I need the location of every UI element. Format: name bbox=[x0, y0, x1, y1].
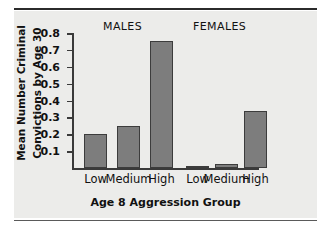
y-axis-tick: 0.6 bbox=[67, 67, 72, 69]
y-axis-title: Mean Number Criminal Convictions by Age … bbox=[0, 18, 44, 168]
bar bbox=[84, 134, 107, 168]
figure-container: Mean Number Criminal Convictions by Age … bbox=[0, 0, 331, 234]
y-axis-tick: 0.8 bbox=[67, 33, 72, 35]
y-axis-tick-label: 0.5 bbox=[41, 77, 61, 90]
y-axis-tick: 0.2 bbox=[67, 134, 72, 136]
y-axis-title-line-1: Mean Number Criminal bbox=[13, 18, 29, 168]
group-header-males: MALES bbox=[103, 20, 142, 33]
bar bbox=[150, 41, 173, 168]
y-axis-tick: 0.7 bbox=[67, 50, 72, 52]
bar bbox=[244, 111, 267, 168]
y-axis-line bbox=[72, 33, 74, 168]
y-axis-tick: 0.3 bbox=[67, 117, 72, 119]
top-rule bbox=[14, 8, 317, 10]
group-header-females: FEMALES bbox=[193, 20, 246, 33]
y-axis-tick: 0.1 bbox=[67, 151, 72, 153]
y-axis-tick: 0.4 bbox=[67, 101, 72, 103]
y-axis-tick: 0.5 bbox=[67, 84, 72, 86]
y-axis-tick-label: 0.3 bbox=[41, 111, 61, 124]
y-axis-tick-label: 0.6 bbox=[41, 60, 61, 73]
x-axis-category-label: High bbox=[148, 172, 174, 186]
x-axis-line bbox=[72, 168, 259, 170]
y-axis-tick-label: 0.7 bbox=[41, 43, 61, 56]
y-axis-tick-label: 0.2 bbox=[41, 128, 61, 141]
x-axis-title: Age 8 Aggression Group bbox=[0, 196, 331, 209]
bar bbox=[215, 164, 238, 168]
y-axis-tick-label: 0.4 bbox=[41, 94, 61, 107]
y-axis-tick-label: 0.1 bbox=[41, 145, 61, 158]
bar bbox=[117, 126, 140, 168]
x-axis-category-label: Medium bbox=[106, 172, 152, 186]
y-axis-tick-label: 0.8 bbox=[41, 27, 61, 40]
x-axis-category-label: High bbox=[242, 172, 268, 186]
plot-area: 0.80.70.60.50.40.30.20.1 bbox=[72, 33, 259, 168]
bottom-rule bbox=[14, 220, 317, 221]
bar bbox=[186, 166, 209, 168]
x-axis-category-label: Low bbox=[84, 172, 107, 186]
